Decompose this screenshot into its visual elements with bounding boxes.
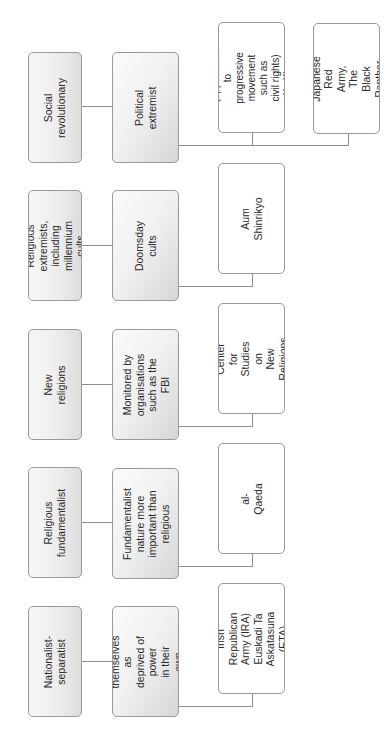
connector bbox=[179, 145, 349, 146]
description-box-political-extremist: Political extremist bbox=[112, 52, 179, 163]
connector bbox=[348, 133, 349, 146]
example-box-right-wing: Right-wing (opposition to progressive mo… bbox=[218, 22, 285, 133]
description-box-monitored: Monitored by organisations such as the F… bbox=[112, 329, 179, 440]
example-label: Center for Studies on New Religions bbox=[218, 337, 285, 380]
example-label: Aum Shinrikyo bbox=[239, 197, 264, 240]
connector bbox=[179, 566, 253, 567]
example-box-center-for-studies: Center for Studies on New Religions bbox=[218, 303, 285, 414]
description-label: Monitored by organisations such as the F… bbox=[120, 353, 170, 415]
connector bbox=[179, 706, 253, 707]
connector bbox=[252, 413, 253, 427]
description-label: Fundamentalist nature more important tha… bbox=[120, 488, 170, 560]
connector bbox=[82, 384, 112, 385]
connector bbox=[252, 553, 253, 567]
example-label: Right-wing (opposition to progressive mo… bbox=[218, 52, 285, 104]
description-box-doomsday-cults: Doomsday cults bbox=[112, 190, 179, 301]
category-box-social-revolutionary: Social revolutionary bbox=[28, 52, 82, 163]
example-box-aum-shinrikyo: Aum Shinrikyo bbox=[218, 163, 285, 274]
category-box-nationalist-separatist: Nationalist-separatist bbox=[28, 606, 82, 717]
example-label: al-Qaeda bbox=[239, 482, 264, 515]
description-label: Doomsday cults bbox=[133, 220, 158, 270]
category-label: New religions bbox=[42, 365, 67, 404]
connector bbox=[179, 426, 253, 427]
example-box-al-qaeda: al-Qaeda bbox=[218, 443, 285, 554]
category-label: Religious extremists, including millenni… bbox=[28, 220, 82, 271]
connector bbox=[82, 661, 112, 662]
category-label: Religious fundamentalist bbox=[42, 488, 67, 556]
description-box-fundamentalist-nature: Fundamentalist nature more important tha… bbox=[112, 468, 179, 579]
category-box-religious-extremists: Religious extremists, including millenni… bbox=[28, 190, 82, 301]
category-label: Nationalist-separatist bbox=[42, 635, 67, 688]
example-box-ira-eta: Irish Republican Army (IRA) Euskadi Ta A… bbox=[218, 583, 285, 694]
example-label: Irish Republican Army (IRA) Euskadi Ta A… bbox=[218, 611, 285, 666]
description-label: Perceive themselves as deprived of power… bbox=[112, 635, 179, 688]
connector bbox=[252, 693, 253, 707]
connector bbox=[82, 245, 112, 246]
description-box-perceive-deprived: Perceive themselves as deprived of power… bbox=[112, 606, 179, 717]
connector bbox=[252, 273, 253, 287]
category-box-new-religions: New religions bbox=[28, 329, 82, 440]
connector bbox=[82, 522, 112, 523]
description-label: Political extremist bbox=[133, 86, 158, 129]
connector bbox=[252, 133, 253, 145]
example-label: Left wing, Japanese Red Army, The Black … bbox=[313, 56, 380, 102]
connector bbox=[82, 106, 112, 107]
category-label: Social revolutionary bbox=[42, 77, 67, 137]
category-box-religious-fundamentalist: Religious fundamentalist bbox=[28, 467, 82, 578]
example-box-left-wing: Left wing, Japanese Red Army, The Black … bbox=[313, 23, 380, 134]
connector bbox=[179, 286, 253, 287]
